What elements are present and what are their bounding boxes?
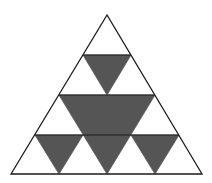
sierpinski-diagram <box>0 0 212 183</box>
sierpinski-triangle-svg <box>0 0 212 183</box>
